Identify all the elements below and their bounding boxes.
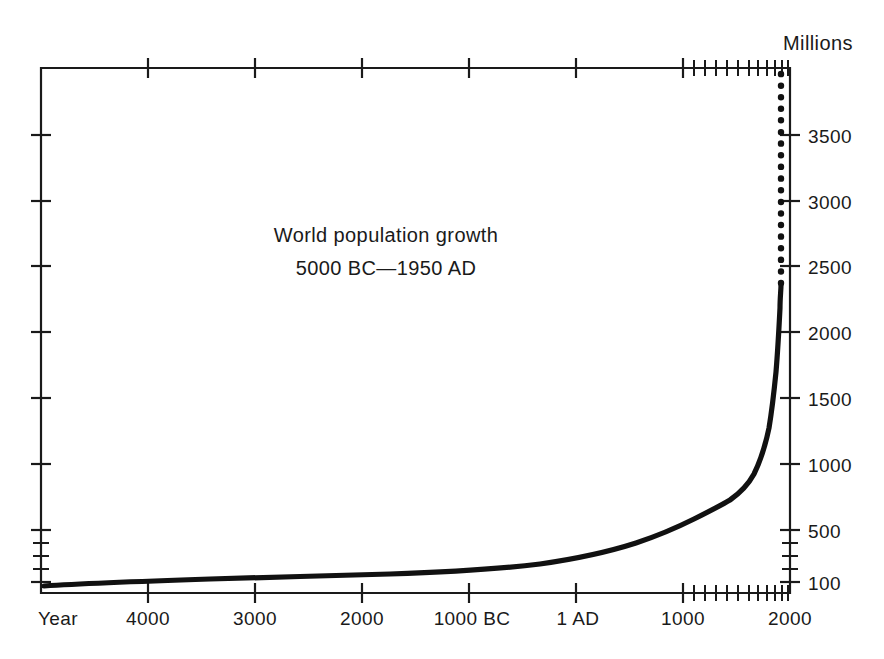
y-axis-major-ticks xyxy=(31,135,800,582)
chart-title: World population growth xyxy=(274,224,499,246)
x-label-3000: 3000 xyxy=(233,608,277,629)
chart-title-block: World population growth 5000 BC—1950 AD xyxy=(274,224,499,279)
x-label-1-ad: 1 AD xyxy=(557,608,600,629)
plot-frame xyxy=(41,68,790,593)
x-label-year: Year xyxy=(38,608,78,629)
y-label-3000: 3000 xyxy=(808,192,852,213)
y-label-500: 500 xyxy=(808,521,841,542)
y-label-2000: 2000 xyxy=(808,323,852,344)
y-label-100: 100 xyxy=(808,573,841,594)
chart-subtitle: 5000 BC—1950 AD xyxy=(296,257,477,279)
y-axis-minor-ticks xyxy=(33,543,798,569)
world-population-chart: 3500 3000 2500 2000 1500 1000 500 100 Mi… xyxy=(0,0,884,659)
x-axis-tick-labels: Year 4000 3000 2000 1000 BC 1 AD 1000 20… xyxy=(38,608,812,629)
y-label-2500: 2500 xyxy=(808,257,852,278)
y-axis-tick-labels: 3500 3000 2500 2000 1500 1000 500 100 xyxy=(808,126,852,594)
y-label-1500: 1500 xyxy=(808,389,852,410)
x-label-4000: 4000 xyxy=(126,608,170,629)
frame-border xyxy=(41,68,790,593)
x-label-1000-ad: 1000 xyxy=(661,608,705,629)
x-axis-major-ticks xyxy=(148,58,683,603)
y-label-1000: 1000 xyxy=(808,455,852,476)
y-axis-title-millions: Millions xyxy=(783,32,853,54)
x-label-2000-ad: 2000 xyxy=(768,608,812,629)
x-label-2000: 2000 xyxy=(340,608,384,629)
population-curve-observed xyxy=(44,285,781,586)
chart-figure: 3500 3000 2500 2000 1500 1000 500 100 Mi… xyxy=(0,0,884,659)
x-axis-minor-ticks xyxy=(694,60,788,601)
x-label-1000-bc: 1000 BC xyxy=(434,608,511,629)
y-label-3500: 3500 xyxy=(808,126,852,147)
